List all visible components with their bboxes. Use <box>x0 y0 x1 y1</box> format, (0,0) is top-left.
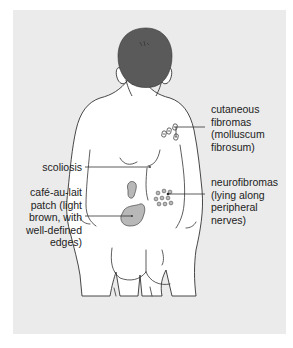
label-line: fibrosum) <box>211 141 265 154</box>
label-line: patch (light <box>14 199 82 212</box>
scoliosis-leader-end-dot <box>149 166 151 168</box>
label-line: café-au-lait <box>14 186 82 199</box>
label-neurofibromas: neurofibromas (lying along peripheral ne… <box>211 176 278 226</box>
label-line: neurofibromas <box>211 176 278 189</box>
label-line: edges) <box>14 236 82 249</box>
neurofibromas-nodules <box>154 189 173 206</box>
label-line: (molluscum <box>211 128 265 141</box>
label-cafe-au-lait: café-au-lait patch (light brown, with we… <box>14 186 82 249</box>
label-line: scoliosis <box>20 161 82 174</box>
label-line: brown, with <box>14 211 82 224</box>
label-line: (lying along <box>211 189 278 202</box>
label-cutaneous-fibromas: cutaneous fibromas (molluscum fibrosum) <box>211 103 265 153</box>
label-line: fibromas <box>211 116 265 129</box>
label-line: well-defined <box>14 224 82 237</box>
label-scoliosis: scoliosis <box>20 161 82 174</box>
label-line: cutaneous <box>211 103 265 116</box>
body-back-illustration <box>0 0 293 348</box>
hair <box>118 28 172 88</box>
label-line: nerves) <box>211 214 278 227</box>
label-line: peripheral <box>211 201 278 214</box>
cafe-au-lait-leader-end-dot <box>131 215 133 217</box>
